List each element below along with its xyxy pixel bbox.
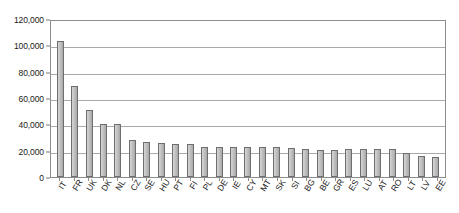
plot-area: [50, 20, 446, 178]
bar-ie[interactable]: [230, 147, 237, 177]
bar-slot: [197, 21, 211, 177]
bar-slot: [400, 21, 414, 177]
x-axis-slot: RO: [386, 178, 401, 213]
bar-slot: [140, 21, 154, 177]
bar-slot: [356, 21, 370, 177]
bar-slot: [327, 21, 341, 177]
x-axis-slot: SI: [284, 178, 299, 213]
bar-pt[interactable]: [172, 144, 179, 177]
bar-slot: [183, 21, 197, 177]
x-axis-slot: EE: [429, 178, 444, 213]
bar-ee[interactable]: [432, 157, 439, 177]
x-axis-slot: LU: [357, 178, 372, 213]
bar-slot: [53, 21, 67, 177]
bar-pl[interactable]: [201, 147, 208, 177]
bar-at[interactable]: [374, 149, 381, 177]
x-axis-slot: UK: [81, 178, 96, 213]
bar-uk[interactable]: [86, 110, 93, 177]
bar-mt[interactable]: [259, 147, 266, 177]
bar-slot: [385, 21, 399, 177]
bar-lv[interactable]: [418, 156, 425, 177]
bar-slot: [67, 21, 81, 177]
bar-hu[interactable]: [158, 143, 165, 177]
y-axis: 120,000100,00080,00060,00040,00020,0000: [0, 0, 50, 213]
y-axis-tick-label: 0: [39, 174, 44, 183]
y-axis-tick-label: 100,000: [14, 42, 44, 51]
x-axis-slot: CY: [241, 178, 256, 213]
bar-gr[interactable]: [331, 150, 338, 177]
x-axis-slot: PT: [168, 178, 183, 213]
x-axis-slot: LT: [400, 178, 415, 213]
bar-lu[interactable]: [360, 149, 367, 177]
bar-sk[interactable]: [273, 147, 280, 177]
bar-ro[interactable]: [389, 149, 396, 177]
bar-slot: [313, 21, 327, 177]
bar-dk[interactable]: [100, 124, 107, 177]
bar-chart: 120,000100,00080,00060,00040,00020,0000 …: [0, 0, 459, 213]
bar-slot: [125, 21, 139, 177]
y-axis-tick-label: 40,000: [19, 121, 44, 130]
bar-bg[interactable]: [302, 149, 309, 177]
bar-slot: [154, 21, 168, 177]
x-axis-slot: CZ: [125, 178, 140, 213]
bar-slot: [284, 21, 298, 177]
bar-si[interactable]: [288, 148, 295, 177]
bar-cy[interactable]: [244, 147, 251, 177]
x-axis-slot: IT: [52, 178, 67, 213]
bar-cz[interactable]: [129, 140, 136, 177]
x-axis-slot: LV: [415, 178, 430, 213]
x-axis-slot: SE: [139, 178, 154, 213]
bar-be[interactable]: [317, 150, 324, 177]
x-axis-slot: AT: [371, 178, 386, 213]
y-axis-tick-label: 120,000: [14, 16, 44, 25]
x-axis-slot: FI: [183, 178, 198, 213]
bar-de[interactable]: [216, 147, 223, 177]
x-axis-slot: HU: [154, 178, 169, 213]
x-axis: ITFRUKDKNLCZSEHUPTFIPLDEIECYMTSKSIBGBEGR…: [50, 178, 446, 213]
bar-fr[interactable]: [71, 86, 78, 178]
bar-slot: [169, 21, 183, 177]
bar-slot: [270, 21, 284, 177]
bar-slot: [428, 21, 442, 177]
bar-slot: [212, 21, 226, 177]
x-axis-slot: MT: [255, 178, 270, 213]
x-axis-slot: DE: [212, 178, 227, 213]
bar-slot: [82, 21, 96, 177]
bar-se[interactable]: [143, 142, 150, 177]
bar-es[interactable]: [345, 149, 352, 177]
x-axis-slot: BE: [313, 178, 328, 213]
x-axis-slot: BG: [299, 178, 314, 213]
bar-slot: [414, 21, 428, 177]
x-axis-slot: IE: [226, 178, 241, 213]
x-axis-slot: FR: [67, 178, 82, 213]
bar-lt[interactable]: [403, 153, 410, 177]
bar-slot: [111, 21, 125, 177]
bar-fi[interactable]: [187, 144, 194, 177]
x-axis-slot: GR: [328, 178, 343, 213]
bar-it[interactable]: [57, 41, 64, 177]
x-axis-slot: DK: [96, 178, 111, 213]
x-axis-slot: SK: [270, 178, 285, 213]
bar-slot: [342, 21, 356, 177]
bar-slot: [371, 21, 385, 177]
bar-slot: [241, 21, 255, 177]
x-axis-slot: PL: [197, 178, 212, 213]
bars-container: [51, 21, 445, 177]
bar-slot: [298, 21, 312, 177]
bar-slot: [96, 21, 110, 177]
y-axis-tick-label: 20,000: [19, 147, 44, 156]
bar-slot: [226, 21, 240, 177]
x-axis-slot: ES: [342, 178, 357, 213]
y-axis-tick-label: 60,000: [19, 95, 44, 104]
bar-slot: [255, 21, 269, 177]
y-axis-tick-label: 80,000: [19, 68, 44, 77]
x-axis-slot: NL: [110, 178, 125, 213]
bar-nl[interactable]: [114, 124, 121, 177]
